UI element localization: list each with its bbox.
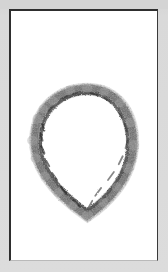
scanned-page [0,0,168,272]
teardrop-loop-sketch [11,11,157,260]
cut-off-text-row [0,0,168,9]
figure-plate [9,9,158,261]
